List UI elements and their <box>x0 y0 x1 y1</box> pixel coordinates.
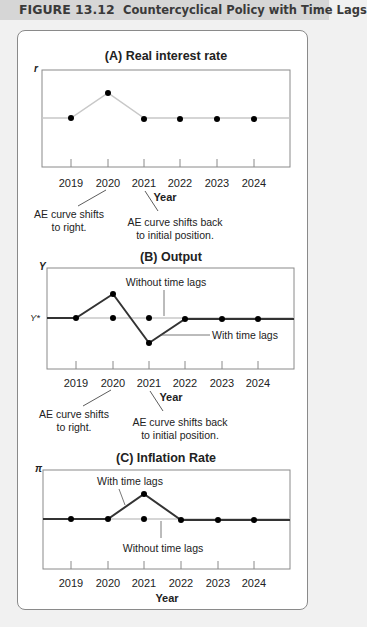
svg-text:2023: 2023 <box>210 377 234 389</box>
panel-c-label-without-lags: Without time lags <box>123 542 204 554</box>
panel-a-x-tick-labels: 2019 2020 2021 2022 2023 2024 <box>59 177 266 189</box>
panel-a-annotation-left-line2: to right. <box>51 221 86 233</box>
svg-text:2024: 2024 <box>242 177 266 189</box>
panel-a-y-axis-label: r <box>34 63 39 74</box>
panel-output: (B) Output Y Y* Without time lags <box>30 250 294 441</box>
panel-b-potential-output-label: Y* <box>30 312 40 323</box>
panel-b-annotation-right-line1: AE curve shifts back <box>132 416 228 428</box>
svg-text:2019: 2019 <box>59 177 83 189</box>
panel-b-title: (B) Output <box>140 250 203 264</box>
panel-b-annotation-right-line2: to initial position. <box>141 429 219 441</box>
svg-text:2021: 2021 <box>132 577 156 589</box>
panel-c-leader-with-lags <box>119 489 125 505</box>
panel-b-annotation-leader-left <box>83 390 111 406</box>
svg-text:2022: 2022 <box>169 577 193 589</box>
svg-text:2021: 2021 <box>132 177 156 189</box>
panel-b-label-with-lags: With time lags <box>212 329 278 341</box>
svg-text:2020: 2020 <box>101 377 125 389</box>
panel-b-x-tick-labels: 2019 2020 2021 2022 2023 2024 <box>64 377 270 389</box>
panel-c-label-with-lags: With time lags <box>97 475 163 487</box>
svg-text:2024: 2024 <box>246 377 270 389</box>
panel-c-x-axis-label: Year <box>155 592 179 604</box>
svg-text:2021: 2021 <box>137 377 161 389</box>
panel-b-annotation-left-line2: to right. <box>56 421 91 433</box>
panel-inflation-rate: (C) Inflation Rate π With time lags With… <box>35 451 290 604</box>
panel-c-y-axis-label: π <box>35 463 43 474</box>
svg-text:2019: 2019 <box>59 577 83 589</box>
panel-a-line <box>42 93 290 118</box>
panel-b-ticks <box>76 361 258 369</box>
svg-text:2022: 2022 <box>168 177 192 189</box>
panel-c-with-lags-line <box>43 494 290 520</box>
panel-a-title: (A) Real interest rate <box>105 49 227 63</box>
panel-c-x-tick-labels: 2019 2020 2021 2022 2023 2024 <box>59 577 266 589</box>
panel-a-points <box>68 90 257 122</box>
svg-text:2024: 2024 <box>242 577 266 589</box>
panel-a-annotation-left-line1: AE curve shifts <box>34 208 104 220</box>
panel-a-ticks <box>71 159 254 167</box>
panel-a-annotation-right-line1: AE curve shifts back <box>127 216 223 228</box>
panel-c-title: (C) Inflation Rate <box>116 451 216 465</box>
svg-text:2022: 2022 <box>173 377 197 389</box>
panel-a-annotation-right-line2: to initial position. <box>136 229 214 241</box>
panel-c-ticks <box>71 561 254 569</box>
svg-text:2019: 2019 <box>64 377 88 389</box>
panel-a-x-axis-label: Year <box>153 191 177 203</box>
svg-text:2020: 2020 <box>96 577 120 589</box>
panel-real-interest-rate: (A) Real interest rate r 2019 2020 2021 <box>34 49 290 241</box>
panel-a-annotation-leader-left <box>78 190 106 206</box>
panel-b-x-axis-label: Year <box>159 391 183 403</box>
svg-text:2023: 2023 <box>205 177 229 189</box>
panel-b-y-axis-label: Y <box>39 261 47 272</box>
svg-text:2023: 2023 <box>206 577 230 589</box>
svg-text:2020: 2020 <box>96 177 120 189</box>
panel-b-annotation-left-line1: AE curve shifts <box>39 408 109 420</box>
panel-b-label-without-lags: Without time lags <box>126 276 207 288</box>
